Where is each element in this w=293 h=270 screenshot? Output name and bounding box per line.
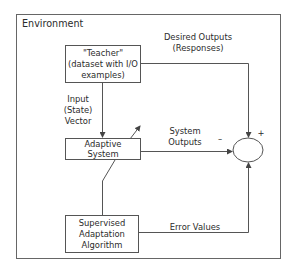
- summing-junction[interactable]: [233, 138, 263, 162]
- error-values-line-1: Error Values: [170, 222, 220, 232]
- algorithm-label: Supervised Adaptation Algorithm: [66, 216, 138, 252]
- desired-outputs-label: Desired Outputs (Responses): [158, 32, 238, 54]
- desired-outputs-line-1: Desired Outputs: [164, 32, 232, 43]
- input-vector-line-1: Input: [67, 94, 89, 105]
- system-outputs-line-2: Outputs: [168, 137, 201, 148]
- adaptive-system-label: Adaptive System: [66, 139, 140, 159]
- adaptation-arrow: [130, 126, 140, 139]
- adaptive-system-line-1: Adaptive: [84, 139, 121, 149]
- diagram-canvas: [0, 0, 293, 270]
- adaptation-feedback-line: [103, 160, 116, 215]
- environment-frame: [17, 15, 281, 259]
- input-vector-label: Input (State) Vector: [60, 94, 96, 127]
- algorithm-line-1: Supervised: [79, 218, 126, 229]
- input-vector-line-3: Vector: [65, 116, 92, 127]
- system-outputs-label: System Outputs: [163, 126, 207, 148]
- algorithm-line-3: Algorithm: [81, 240, 122, 251]
- input-vector-line-2: (State): [64, 105, 93, 116]
- minus-sign: –: [215, 134, 225, 145]
- desired-outputs-line-2: (Responses): [172, 43, 223, 54]
- plus-sign: +: [256, 128, 266, 139]
- teacher-line-2: (dataset with I/O: [68, 59, 138, 70]
- error-values-label: Error Values: [165, 222, 225, 233]
- environment-label: Environment: [22, 18, 83, 29]
- algorithm-line-2: Adaptation: [79, 229, 125, 240]
- system-outputs-line-1: System: [169, 126, 200, 137]
- teacher-line-3: examples): [81, 70, 125, 81]
- adaptive-system-line-2: System: [87, 149, 118, 159]
- teacher-label: "Teacher" (dataset with I/O examples): [66, 46, 140, 82]
- teacher-line-1: "Teacher": [83, 48, 123, 59]
